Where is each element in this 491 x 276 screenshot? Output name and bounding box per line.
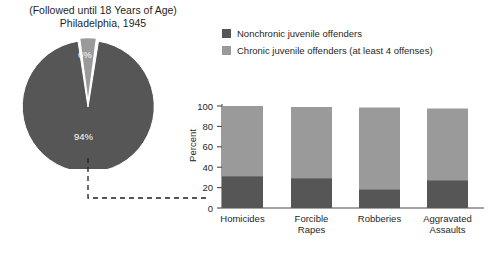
pie-label-chronic: 6%: [78, 49, 92, 60]
legend: Nonchronic juvenile offenders Chronic ju…: [222, 28, 488, 62]
bar-nonchronic-robberies: [359, 190, 400, 208]
bar-group-aggravated-assaults: [427, 109, 468, 209]
x-axis-labels: Homicides Forcible Rapes Robberies Aggra…: [220, 213, 471, 235]
figure-root: (Followed until 18 Years of Age) Philade…: [0, 0, 491, 276]
legend-label-nonchronic: Nonchronic juvenile offenders: [237, 28, 362, 39]
legend-label-chronic: Chronic juvenile offenders (at least 4 o…: [237, 45, 433, 56]
bar-chart-svg: 100 80 60 40 20 0: [178, 96, 491, 266]
bar-group-homicides: [222, 106, 263, 208]
x-label-homicides-line1: Homicides: [220, 213, 265, 224]
y-tick-label-100: 100: [197, 101, 213, 112]
y-axis-ticks: 100 80 60 40 20 0: [197, 101, 222, 214]
y-tick-label-80: 80: [202, 121, 213, 132]
pie-label-nonchronic: 94%: [74, 131, 93, 142]
x-label-forcible-rapes-line2: Rapes: [298, 224, 326, 235]
legend-item-nonchronic: Nonchronic juvenile offenders: [222, 28, 488, 39]
x-label-robberies-line1: Robberies: [358, 213, 402, 224]
y-tick-label-0: 0: [208, 203, 213, 214]
legend-item-chronic: Chronic juvenile offenders (at least 4 o…: [222, 45, 488, 56]
x-label-aggravated-assaults-line1: Aggravated: [423, 213, 472, 224]
bar-nonchronic-aggravated-assaults: [427, 181, 468, 209]
figure-title: (Followed until 18 Years of Age) Philade…: [8, 4, 198, 31]
x-label-forcible-rapes-line1: Forcible: [295, 213, 329, 224]
bar-nonchronic-homicides: [222, 176, 263, 208]
title-line-2: Philadelphia, 1945: [8, 17, 198, 30]
x-label-aggravated-assaults-line2: Assaults: [430, 224, 466, 235]
bar-group-robberies: [359, 108, 400, 209]
nonchronic-swatch-icon: [222, 29, 231, 38]
y-tick-label-40: 40: [202, 162, 213, 173]
bar-group-forcible-rapes: [291, 107, 332, 208]
bar-chart: Percent 100 80 60 40 20 0: [178, 96, 491, 266]
pie-chart: 94% 6%: [22, 37, 154, 169]
y-axis-label: Percent: [187, 116, 198, 176]
y-tick-label-20: 20: [202, 182, 213, 193]
chronic-swatch-icon: [222, 46, 231, 55]
bar-nonchronic-forcible-rapes: [291, 178, 332, 208]
title-line-1: (Followed until 18 Years of Age): [8, 4, 198, 17]
y-tick-label-60: 60: [202, 141, 213, 152]
